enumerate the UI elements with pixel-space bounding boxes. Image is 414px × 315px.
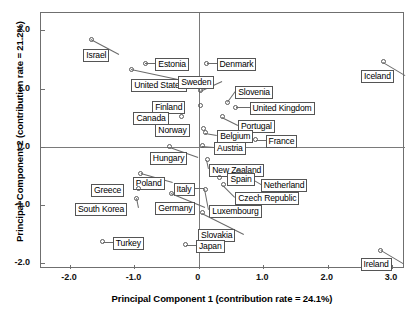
label-leader-line: [223, 185, 236, 198]
label-leader-line: [205, 133, 217, 136]
y-tick: [41, 263, 45, 264]
label-leader-line: [222, 117, 238, 126]
label-leader-line: [236, 107, 250, 108]
scatter-plot-figure: Principal Component 2 (contribution rate…: [0, 0, 414, 315]
y-tick: [41, 147, 45, 148]
y-axis-title: Principal Component 2 (contribution rate…: [14, 7, 25, 257]
point-label-japan: Japan: [196, 240, 225, 253]
point-label-united-kingdom: United Kingdom: [250, 102, 315, 115]
x-tick-label: -1.0: [113, 272, 153, 282]
point-label-france: France: [266, 135, 298, 148]
y-tick: [41, 205, 45, 206]
point-label-canada: Canada: [133, 112, 168, 125]
x-tick: [134, 265, 135, 269]
x-tick: [199, 265, 200, 269]
point-label-estonia: Estonia: [155, 58, 189, 71]
point-label-greece: Greece: [91, 184, 124, 197]
plot-area: IsraelUnited StatesEstoniaDenmarkIceland…: [40, 12, 404, 268]
point-label-south-korea: South Korea: [75, 203, 127, 216]
point-label-sweden: Sweden: [178, 76, 214, 89]
data-point: [217, 175, 222, 180]
data-point: [136, 186, 141, 191]
point-label-turkey: Turkey: [113, 237, 144, 250]
data-point: [198, 103, 203, 108]
point-label-iceland: Iceland: [361, 70, 394, 83]
point-label-slovenia: Slovenia: [235, 86, 273, 99]
y-tick: [41, 89, 45, 90]
point-label-norway: Norway: [155, 124, 189, 137]
point-label-austria: Austria: [214, 142, 246, 155]
x-axis-title: Principal Component 1 (contribution rate…: [40, 293, 404, 304]
point-label-luxembourg: Luxembourg: [209, 205, 261, 218]
y-tick-label: -2.0: [0, 257, 30, 267]
y-tick-label: -1.0: [0, 199, 30, 209]
x-tick-label: 1.0: [242, 272, 282, 282]
y-tick-label: 1.0: [0, 83, 30, 93]
label-leader-line: [145, 63, 155, 64]
x-tick: [70, 265, 71, 269]
label-leader-line: [186, 245, 196, 246]
x-tick-label: 2.0: [307, 272, 347, 282]
label-leader-line: [207, 63, 217, 64]
point-label-germany: Germany: [155, 202, 195, 215]
point-label-italy: Italy: [174, 183, 195, 196]
x-tick-label: -2.0: [49, 272, 89, 282]
point-label-hungary: Hungary: [150, 152, 187, 165]
x-tick: [263, 265, 264, 269]
x-tick: [328, 265, 329, 269]
point-label-denmark: Denmark: [217, 58, 257, 71]
y-tick-label: 0.0: [0, 141, 30, 151]
x-tick-label: 3.0: [371, 272, 411, 282]
data-point: [179, 114, 184, 119]
point-label-israel: Israel: [83, 49, 109, 62]
label-leader-line: [103, 242, 113, 243]
point-label-czech-republic: Czech Republic: [235, 192, 299, 205]
y-tick: [41, 30, 45, 31]
point-label-ireland: Ireland: [361, 258, 392, 271]
point-label-spain: Spain: [227, 173, 254, 186]
y-tick-label: 2.0: [0, 24, 30, 34]
x-tick: [392, 265, 393, 269]
label-leader-line: [256, 140, 266, 141]
point-label-netherland: Netherland: [261, 179, 308, 192]
x-tick-label: 0: [178, 272, 218, 282]
